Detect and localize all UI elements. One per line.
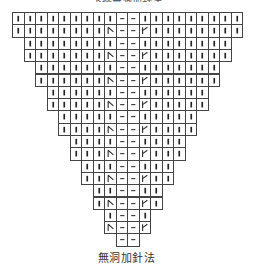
- knit-symbol-icon: [151, 50, 162, 61]
- knit-symbol-icon: [163, 111, 174, 122]
- knit-symbol-icon: [94, 50, 105, 61]
- knit-symbol-icon: [186, 111, 197, 122]
- knit-symbol-icon: [105, 136, 116, 147]
- purl-symbol-icon: [117, 234, 128, 245]
- knit-symbol-icon: [13, 13, 24, 24]
- knit-symbol-icon: [71, 50, 82, 61]
- knit-symbol-icon: [105, 87, 116, 98]
- chart-cell-knit: [196, 98, 209, 111]
- knit-symbol-icon: [163, 75, 174, 86]
- knit-symbol-icon: [94, 25, 105, 36]
- knit-symbol-icon: [36, 75, 47, 86]
- knit-symbol-icon: [174, 111, 185, 122]
- knit-symbol-icon: [82, 136, 93, 147]
- knit-symbol-icon: [186, 13, 197, 24]
- purl-symbol-icon: [128, 111, 139, 122]
- knit-symbol-icon: [151, 87, 162, 98]
- knit-symbol-icon: [25, 25, 36, 36]
- knit-symbol-icon: [82, 62, 93, 73]
- purl-symbol-icon: [128, 222, 139, 233]
- purl-symbol-icon: [117, 222, 128, 233]
- knit-symbol-icon: [140, 185, 151, 196]
- knit-symbol-icon: [140, 38, 151, 49]
- right-decrease-symbol-icon: [140, 222, 151, 233]
- knit-symbol-icon: [36, 50, 47, 61]
- knit-symbol-icon: [82, 173, 93, 184]
- purl-symbol-icon: [128, 13, 139, 24]
- knit-symbol-icon: [163, 38, 174, 49]
- knit-symbol-icon: [140, 13, 151, 24]
- knit-symbol-icon: [105, 38, 116, 49]
- knit-symbol-icon: [174, 62, 185, 73]
- knit-symbol-icon: [36, 38, 47, 49]
- knit-symbol-icon: [174, 148, 185, 159]
- knit-symbol-icon: [186, 75, 197, 86]
- knit-symbol-icon: [71, 13, 82, 24]
- knit-symbol-icon: [94, 148, 105, 159]
- knit-symbol-icon: [232, 25, 243, 36]
- chart-cell-knit: [150, 184, 163, 197]
- knitting-chart-grid: [0, 0, 253, 267]
- knit-symbol-icon: [71, 25, 82, 36]
- knit-symbol-icon: [48, 99, 59, 110]
- purl-symbol-icon: [117, 185, 128, 196]
- purl-symbol-icon: [117, 210, 128, 221]
- knit-symbol-icon: [163, 87, 174, 98]
- right-decrease-symbol-icon: [140, 99, 151, 110]
- purl-symbol-icon: [117, 99, 128, 110]
- right-decrease-symbol-icon: [140, 75, 151, 86]
- knit-symbol-icon: [105, 111, 116, 122]
- knit-symbol-icon: [151, 185, 162, 196]
- knit-symbol-icon: [232, 13, 243, 24]
- knit-symbol-icon: [174, 25, 185, 36]
- knit-symbol-icon: [151, 99, 162, 110]
- knit-symbol-icon: [220, 13, 231, 24]
- chart-cell-knit: [208, 61, 221, 74]
- purl-symbol-icon: [117, 173, 128, 184]
- knit-symbol-icon: [151, 38, 162, 49]
- knit-symbol-icon: [174, 38, 185, 49]
- chart-cell-knit: [219, 37, 232, 50]
- knit-symbol-icon: [163, 173, 174, 184]
- purl-symbol-icon: [128, 136, 139, 147]
- knit-symbol-icon: [186, 25, 197, 36]
- knit-symbol-icon: [94, 62, 105, 73]
- knit-symbol-icon: [48, 50, 59, 61]
- knit-symbol-icon: [151, 13, 162, 24]
- purl-symbol-icon: [117, 25, 128, 36]
- knit-symbol-icon: [82, 161, 93, 172]
- knit-symbol-icon: [82, 38, 93, 49]
- knit-symbol-icon: [140, 87, 151, 98]
- knit-symbol-icon: [71, 38, 82, 49]
- knit-symbol-icon: [151, 173, 162, 184]
- knit-symbol-icon: [209, 75, 220, 86]
- knit-symbol-icon: [197, 38, 208, 49]
- chart-cell-knit: [208, 74, 221, 87]
- knit-symbol-icon: [174, 13, 185, 24]
- knit-symbol-icon: [220, 38, 231, 49]
- knit-symbol-icon: [174, 50, 185, 61]
- knit-symbol-icon: [140, 136, 151, 147]
- purl-symbol-icon: [117, 62, 128, 73]
- knit-symbol-icon: [186, 50, 197, 61]
- knit-symbol-icon: [71, 124, 82, 135]
- knit-symbol-icon: [48, 13, 59, 24]
- right-decrease-symbol-icon: [140, 50, 151, 61]
- purl-symbol-icon: [117, 136, 128, 147]
- knit-symbol-icon: [140, 210, 151, 221]
- knit-symbol-icon: [94, 124, 105, 135]
- knit-symbol-icon: [25, 38, 36, 49]
- knit-symbol-icon: [71, 99, 82, 110]
- knit-symbol-icon: [71, 136, 82, 147]
- knit-symbol-icon: [186, 99, 197, 110]
- knit-symbol-icon: [163, 99, 174, 110]
- knit-symbol-icon: [13, 25, 24, 36]
- purl-symbol-icon: [117, 75, 128, 86]
- knit-symbol-icon: [105, 161, 116, 172]
- knit-symbol-icon: [209, 13, 220, 24]
- knit-symbol-icon: [163, 62, 174, 73]
- knit-symbol-icon: [197, 62, 208, 73]
- knit-symbol-icon: [59, 38, 70, 49]
- knit-symbol-icon: [105, 13, 116, 24]
- knit-symbol-icon: [59, 75, 70, 86]
